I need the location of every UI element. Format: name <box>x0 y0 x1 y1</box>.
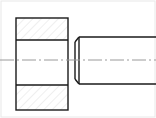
lower-section-hatch-fill <box>16 85 68 110</box>
upper-section-hatch-fill <box>16 18 68 40</box>
engineering-drawing <box>0 0 156 118</box>
drawing-canvas <box>0 0 156 118</box>
